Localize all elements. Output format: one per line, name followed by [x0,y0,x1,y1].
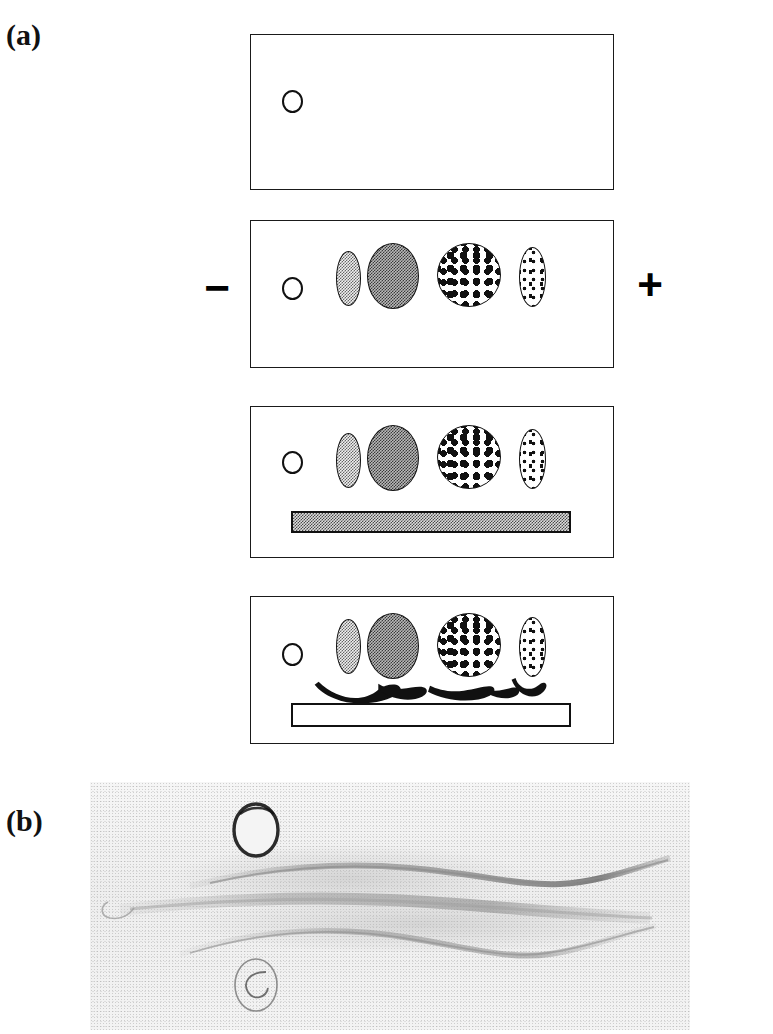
crescent-arc-1b [378,684,427,700]
protein-spot-1 [336,433,361,488]
crescent-arc-3 [512,678,547,697]
protein-spot-2 [367,243,419,309]
gel-photo-features [90,782,690,1030]
protein-spot-1 [336,251,361,306]
protein-spot-3 [437,243,501,307]
second-dimension-gel-bar [291,511,571,533]
panel-a-label: (a) [6,20,41,50]
crescent-arc-1 [315,682,401,704]
gel-panel-stage-1 [250,34,614,190]
gel-panel-stage-4 [250,596,614,744]
protein-spot-3 [437,425,501,489]
origin-circle [282,277,303,300]
cathode-minus-sign: − [200,266,234,310]
crescent-arc-2 [428,686,494,701]
figure-root: (a) − + [0,0,773,1034]
protein-spot-4 [519,247,546,307]
protein-spot-4 [519,429,546,489]
origin-circle [282,90,303,113]
gel-photograph [90,782,690,1030]
gel-panel-stage-3 [250,406,614,558]
protein-spot-1 [336,619,361,674]
lower-origin-spiral [246,972,268,997]
panel-b-label: (b) [6,806,43,836]
protein-spot-3 [437,613,501,677]
anode-plus-sign: + [633,263,667,307]
origin-circle [282,451,303,474]
protein-spot-2 [367,425,419,491]
origin-circle [282,643,303,666]
protein-spot-4 [519,617,546,677]
protein-spot-2 [367,613,419,679]
second-dimension-gel-bar [291,703,571,727]
crescent-arc-2b [488,688,520,699]
lower-origin-ring [235,959,277,1011]
gel-panel-stage-2 [250,220,614,368]
